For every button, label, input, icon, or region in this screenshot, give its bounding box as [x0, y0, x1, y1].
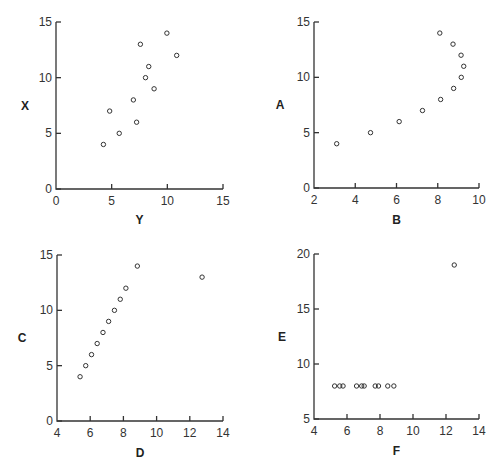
x-tick-label: 4 [352, 193, 359, 207]
data-point [420, 108, 424, 112]
x-tick-label: 8 [377, 424, 384, 438]
data-point [78, 375, 82, 379]
x-tick-label: 12 [439, 424, 453, 438]
y-tick-label: 10 [297, 70, 311, 84]
x-tick-label: 10 [150, 426, 164, 440]
data-point [147, 64, 151, 68]
data-point [143, 75, 147, 79]
x-tick-label: 10 [406, 424, 420, 438]
data-point [392, 384, 396, 388]
data-point [397, 119, 401, 123]
data-point [459, 75, 463, 79]
x-tick-label: 15 [216, 194, 230, 208]
data-point [438, 97, 442, 101]
x-tick-label: 10 [161, 194, 175, 208]
x-tick-label: 5 [108, 194, 115, 208]
data-point [368, 130, 372, 134]
data-point [134, 120, 138, 124]
y-tick-label: 0 [303, 181, 310, 195]
axis-lines [57, 255, 223, 421]
chart-panel-3: 051015468101214DC [18, 248, 230, 460]
data-point [332, 384, 336, 388]
data-point [200, 275, 204, 279]
data-point [112, 308, 116, 312]
data-point [138, 42, 142, 46]
data-point [95, 341, 99, 345]
data-point [152, 87, 156, 91]
axis-lines [56, 22, 223, 189]
y-axis-label: X [21, 99, 29, 113]
x-tick-label: 4 [54, 426, 61, 440]
data-point [131, 98, 135, 102]
x-tick-label: 14 [216, 426, 230, 440]
x-tick-label: 6 [344, 424, 351, 438]
x-axis-label: D [136, 446, 145, 460]
data-point [462, 64, 466, 68]
x-tick-label: 2 [311, 193, 318, 207]
y-tick-label: 15 [39, 15, 53, 29]
data-point [459, 53, 463, 57]
data-point [117, 131, 121, 135]
y-tick-label: 15 [297, 302, 311, 316]
data-point [354, 384, 358, 388]
y-axis-label: A [276, 98, 285, 112]
y-tick-label: 5 [46, 359, 53, 373]
y-tick-label: 5 [45, 126, 52, 140]
data-point [107, 109, 111, 113]
data-point [118, 297, 122, 301]
x-tick-label: 8 [120, 426, 127, 440]
chart-panel-4: 5101520468101214FE [278, 247, 486, 458]
y-tick-label: 10 [39, 71, 53, 85]
y-tick-label: 10 [40, 303, 54, 317]
data-point [106, 319, 110, 323]
x-tick-label: 14 [472, 424, 486, 438]
data-point [334, 142, 338, 146]
data-point [124, 286, 128, 290]
y-tick-label: 5 [303, 412, 310, 426]
x-axis-label: Y [135, 213, 143, 227]
data-point [165, 31, 169, 35]
data-point [135, 264, 139, 268]
data-point [386, 384, 390, 388]
data-point [438, 31, 442, 35]
x-tick-label: 4 [311, 424, 318, 438]
data-point [451, 42, 455, 46]
x-tick-label: 12 [183, 426, 197, 440]
x-tick-label: 6 [87, 426, 94, 440]
data-point [452, 263, 456, 267]
data-point [101, 330, 105, 334]
y-axis-label: E [278, 330, 286, 344]
y-tick-label: 10 [297, 357, 311, 371]
x-axis-label: F [393, 444, 400, 458]
data-point [89, 352, 93, 356]
x-tick-label: 8 [434, 193, 441, 207]
x-axis-label: B [392, 213, 401, 227]
chart-panel-2: 051015246810BA [276, 15, 486, 227]
x-tick-label: 6 [393, 193, 400, 207]
axis-lines [314, 22, 479, 188]
data-point [101, 142, 105, 146]
y-tick-label: 5 [303, 126, 310, 140]
data-point [451, 86, 455, 90]
x-tick-label: 10 [472, 193, 486, 207]
y-tick-label: 20 [297, 247, 311, 261]
x-tick-label: 0 [53, 194, 60, 208]
y-axis-label: C [18, 331, 27, 345]
axis-lines [314, 254, 479, 419]
y-tick-label: 0 [46, 414, 53, 428]
y-tick-label: 0 [45, 182, 52, 196]
data-point [84, 363, 88, 367]
scatter-plot-grid: 051015051015YX 051015246810BA 0510154681… [0, 0, 501, 473]
data-point [174, 53, 178, 57]
y-tick-label: 15 [40, 248, 54, 262]
y-tick-label: 15 [297, 15, 311, 29]
chart-panel-1: 051015051015YX [21, 15, 230, 227]
